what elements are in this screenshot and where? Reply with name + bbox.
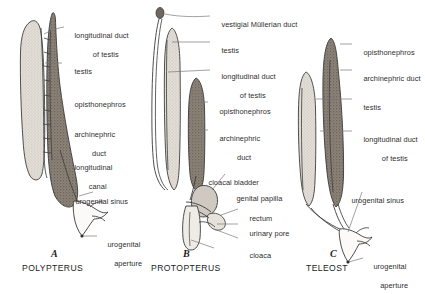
label-line-1: opisthonephros <box>363 48 414 57</box>
panel-a-letter: A <box>51 248 58 259</box>
panel-b-letter: B <box>183 248 190 259</box>
label-line-1: longitudinal duct <box>74 31 128 40</box>
label-b-cloaca: cloaca <box>241 242 271 270</box>
label-c-testis: testis <box>355 94 381 122</box>
label-a-opisthonephros: opisthonephros <box>66 91 126 119</box>
a-testis-shape <box>20 21 44 180</box>
panel-b-name: PROTOPTERUS <box>151 263 221 273</box>
label-line-1: testis <box>221 46 239 55</box>
label-b-opisthonephros: opisthonephros <box>211 98 271 126</box>
label-line-1: urinary pore <box>249 229 289 238</box>
label-line-1: longitudinal <box>74 163 112 172</box>
label-c-urogenital-sinus: urogenital sinus <box>343 187 404 215</box>
b-genital-papilla-shape <box>207 213 225 230</box>
label-line-2: duct <box>219 153 268 162</box>
panel-a-name: POLYPTERUS <box>22 263 83 273</box>
label-line-1: longitudinal duct <box>363 135 417 144</box>
label-b-archinephric-duct: archinephric duct <box>211 125 260 171</box>
label-line-1: opisthonephros <box>219 107 270 116</box>
b-cloaca-shape <box>183 206 201 250</box>
label-line-1: vestigial Müllerian duct <box>221 20 297 29</box>
c-opisthonephros-shape <box>323 38 344 207</box>
label-line-2: of testis <box>363 154 425 163</box>
label-c-urogenital-aperture: urogenital aperture <box>365 253 406 294</box>
label-line-1: testis <box>74 67 92 76</box>
label-a-urogenital-aperture: urogenital aperture <box>99 231 140 277</box>
c-testis-shape <box>298 72 315 206</box>
label-line-2: aperture <box>107 259 148 268</box>
label-b-testis: testis <box>213 37 239 65</box>
c-sinus-branch-upper <box>356 228 369 233</box>
label-line-1: archinephric <box>219 134 260 143</box>
label-line-1: urogenital <box>373 262 406 271</box>
label-line-1: urogenital <box>107 240 140 249</box>
label-line-1: urogenital sinus <box>75 197 128 206</box>
label-line-1: genital papilla <box>236 194 282 203</box>
label-line-1: archinephric <box>74 130 115 139</box>
label-a-urogenital-sinus: urogenital sinus <box>67 188 128 216</box>
label-c-opisthonephros: opisthonephros <box>355 39 415 67</box>
panel-c-name: TELEOST <box>306 263 348 273</box>
label-line-1: longitudinal duct <box>221 72 275 81</box>
label-line-2: aperture <box>373 281 414 290</box>
label-line-1: cloaca <box>249 251 271 260</box>
c-testis-duct-to-sinus-2 <box>311 208 343 233</box>
panel-c-letter: C <box>330 248 337 259</box>
label-line-1: opisthonephros <box>74 100 125 109</box>
label-b-vestigial-mullerian-duct: vestigial Müllerian duct <box>213 11 297 39</box>
label-a-testis: testis <box>66 58 92 86</box>
label-line-1: urogenital sinus <box>351 196 404 205</box>
label-c-archinephric-duct: archinephric duct <box>355 65 421 93</box>
label-line-1: testis <box>363 103 381 112</box>
b-mullerian-bulb <box>156 8 164 19</box>
label-c-longitudinal-duct-of-testis: longitudinal duct of testis <box>355 126 418 172</box>
label-line-1: archinephric duct <box>363 74 420 83</box>
